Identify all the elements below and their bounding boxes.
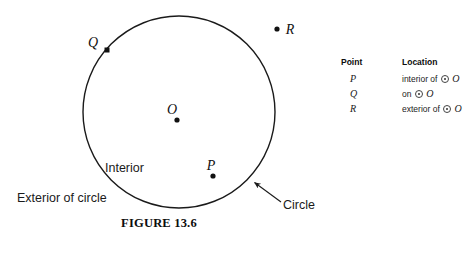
exterior-label: Exterior of circle bbox=[17, 191, 107, 205]
circle-with-center-dot-icon bbox=[441, 75, 449, 83]
point-r-label: R bbox=[285, 22, 295, 37]
legend-cell-point: R bbox=[341, 101, 402, 116]
table-row: R exterior of O bbox=[341, 101, 462, 116]
point-o-marker bbox=[174, 117, 179, 122]
table-row: Q on O bbox=[341, 86, 462, 101]
figure-caption: FIGURE 13.6 bbox=[0, 216, 318, 231]
circle-outline bbox=[83, 16, 275, 208]
circle-callout-arrow bbox=[255, 183, 282, 203]
table-row: P interior of O bbox=[341, 71, 462, 86]
figure-page: O P Q R Interior Exterior of circle Circ… bbox=[0, 0, 474, 253]
legend-cell-point: P bbox=[341, 71, 402, 86]
legend-table: Point Location P interior of O bbox=[341, 57, 462, 116]
legend-header-row: Point Location bbox=[341, 57, 462, 71]
point-p-label: P bbox=[206, 158, 216, 173]
legend-cell-location: interior of O bbox=[402, 71, 462, 86]
legend-point-name: P bbox=[350, 73, 356, 84]
point-q-marker bbox=[105, 48, 110, 53]
legend-point-name: Q bbox=[350, 88, 357, 99]
legend-location-center: O bbox=[426, 88, 433, 99]
legend-location-prefix: exterior of bbox=[402, 104, 440, 114]
point-q-label: Q bbox=[88, 35, 98, 50]
circle-callout-label: Circle bbox=[283, 198, 315, 212]
legend-cell-location: exterior of O bbox=[402, 101, 462, 116]
legend-header-point: Point bbox=[341, 57, 402, 71]
legend-cell-location: on O bbox=[402, 86, 462, 101]
point-o-label: O bbox=[167, 102, 177, 117]
circle-with-center-dot-icon bbox=[415, 90, 423, 98]
point-p-marker bbox=[210, 173, 215, 178]
point-location-legend: Point Location P interior of O bbox=[341, 57, 471, 116]
interior-label: Interior bbox=[105, 161, 144, 175]
legend-location-center: O bbox=[455, 103, 462, 114]
circle-with-center-dot-icon bbox=[443, 105, 451, 113]
legend-header-location: Location bbox=[402, 57, 462, 71]
legend-location-prefix: on bbox=[402, 89, 411, 99]
point-r-marker bbox=[274, 26, 279, 31]
legend-location-center: O bbox=[452, 73, 459, 84]
legend-cell-point: Q bbox=[341, 86, 402, 101]
legend-point-name: R bbox=[350, 103, 356, 114]
legend-location-prefix: interior of bbox=[402, 74, 437, 84]
